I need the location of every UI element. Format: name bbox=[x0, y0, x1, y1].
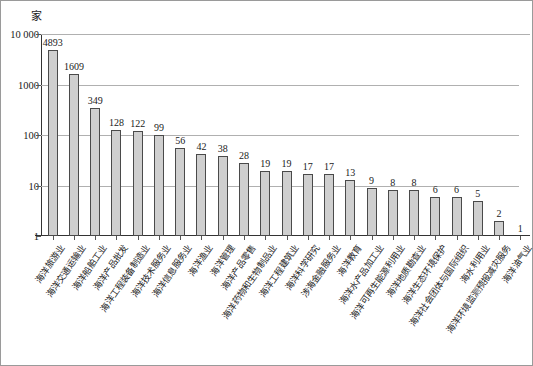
bar-value-label: 5 bbox=[462, 188, 494, 199]
bar bbox=[473, 201, 483, 236]
bar bbox=[282, 171, 292, 236]
bar bbox=[494, 221, 504, 236]
x-axis-tick-mark bbox=[308, 236, 309, 240]
y-axis-tick-mark bbox=[36, 34, 41, 35]
bar bbox=[452, 197, 462, 236]
bar bbox=[154, 135, 164, 236]
x-axis-tick-mark bbox=[223, 236, 224, 240]
bar bbox=[133, 131, 143, 236]
x-axis-tick-mark bbox=[138, 236, 139, 240]
bar bbox=[111, 130, 121, 236]
x-axis-tick-mark bbox=[74, 236, 75, 240]
y-axis-tick-mark bbox=[36, 135, 41, 136]
bar bbox=[345, 180, 355, 236]
x-axis-tick-mark bbox=[414, 236, 415, 240]
chart-figure: 家 110100100010 000 489316093491281229956… bbox=[0, 0, 533, 366]
y-axis-tick-label: 1000 bbox=[3, 79, 39, 90]
x-axis-tick-mark bbox=[372, 236, 373, 240]
x-axis-tick-mark bbox=[287, 236, 288, 240]
bar-value-label: 349 bbox=[79, 95, 111, 106]
x-axis-tick-mark bbox=[244, 236, 245, 240]
y-axis-tick-mark bbox=[36, 85, 41, 86]
x-axis-tick-mark bbox=[116, 236, 117, 240]
x-axis-tick-mark bbox=[95, 236, 96, 240]
y-axis-tick-mark bbox=[36, 236, 41, 237]
bar bbox=[324, 174, 334, 236]
bar-value-label: 2 bbox=[483, 208, 515, 219]
y-axis-unit-label: 家 bbox=[31, 7, 42, 23]
bar bbox=[430, 197, 440, 236]
y-axis-tick-mark bbox=[36, 186, 41, 187]
bar bbox=[409, 190, 419, 236]
x-axis-tick-mark bbox=[435, 236, 436, 240]
bar bbox=[48, 50, 58, 236]
bar bbox=[218, 156, 228, 236]
y-axis-tick-label: 10 000 bbox=[3, 29, 39, 40]
bar-value-label: 4893 bbox=[37, 37, 69, 48]
y-axis-tick-label: 10 bbox=[3, 180, 39, 191]
y-axis-tick-label: 1 bbox=[3, 231, 39, 242]
bar bbox=[260, 171, 270, 236]
x-axis-tick-mark bbox=[457, 236, 458, 240]
x-axis-tick-mark bbox=[499, 236, 500, 240]
bar-value-label: 99 bbox=[143, 122, 175, 133]
bar bbox=[239, 163, 249, 236]
x-axis-tick-mark bbox=[329, 236, 330, 240]
bar bbox=[367, 188, 377, 236]
bar bbox=[69, 74, 79, 236]
x-axis-tick-mark bbox=[520, 236, 521, 240]
x-axis-tick-mark bbox=[53, 236, 54, 240]
bar-value-label: 1609 bbox=[58, 61, 90, 72]
gridline bbox=[41, 34, 530, 35]
x-axis-tick-mark bbox=[265, 236, 266, 240]
x-axis-tick-mark bbox=[478, 236, 479, 240]
gridline bbox=[41, 85, 519, 86]
x-axis-tick-mark bbox=[159, 236, 160, 240]
bar-value-label: 1 bbox=[504, 223, 533, 234]
bar bbox=[303, 174, 313, 236]
bar bbox=[196, 154, 206, 236]
bar bbox=[388, 190, 398, 236]
x-axis-tick-mark bbox=[180, 236, 181, 240]
y-axis-tick-label: 100 bbox=[3, 130, 39, 141]
bar bbox=[175, 148, 185, 236]
x-axis-tick-mark bbox=[393, 236, 394, 240]
bar bbox=[90, 108, 100, 236]
x-axis-tick-mark bbox=[350, 236, 351, 240]
plot-area: 110100100010 000 48931609349128122995642… bbox=[41, 34, 530, 236]
x-axis-tick-mark bbox=[201, 236, 202, 240]
